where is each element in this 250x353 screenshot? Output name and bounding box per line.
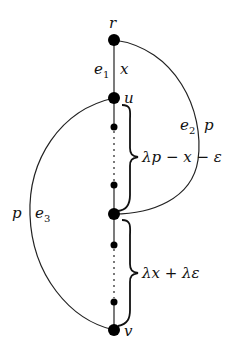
node-label-r: r [109,14,117,32]
node-v [108,324,120,336]
edge-label-e3: e3 [35,204,50,224]
brace-label-lower: λx + λε [141,264,200,282]
node-r [108,34,120,46]
node-label-v: v [124,322,133,340]
node-small [111,124,118,131]
node-small [111,299,118,306]
node-u [108,92,120,104]
edge-weight-e1: x [120,60,129,78]
node-small [111,182,118,189]
brace-upper [118,105,138,211]
brace-lower [118,220,138,326]
edge-weight-e2: p [204,116,214,134]
graph-diagram: r u v e1 x e2 p p e3 λp − x − ε λx + λε [0,0,250,353]
brace-label-upper: λp − x − ε [141,148,222,166]
edge-weight-e3: p [12,204,22,222]
edge-label-e2: e2 [180,116,195,136]
node-mid [108,208,120,220]
node-label-u: u [124,89,134,107]
node-small [111,242,118,249]
edge-label-e1: e1 [94,60,109,80]
